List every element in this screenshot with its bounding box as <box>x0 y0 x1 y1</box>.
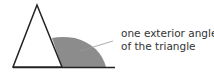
exterior-angle-diagram: one exterior angle of the triangle <box>0 0 214 73</box>
annotation-line-2: of the triangle <box>121 40 214 53</box>
triangle <box>13 5 62 67</box>
annotation-line-1: one exterior angle <box>121 27 214 40</box>
annotation-label: one exterior angle of the triangle <box>121 27 214 53</box>
